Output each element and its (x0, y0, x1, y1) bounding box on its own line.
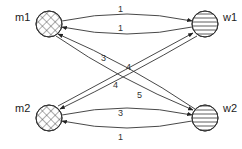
graph-canvas: 1 1 3 4 4 5 3 1 m1 w1 m2 w2 (0, 0, 242, 149)
edge-m2-w2 (62, 108, 192, 115)
striped-node-icon (192, 105, 218, 131)
edge-w1-m2 (60, 36, 197, 109)
node-w1: w1 (192, 11, 237, 37)
edge-label-w2-m1: 3 (101, 53, 106, 63)
crosshatch-node-icon (36, 105, 62, 131)
edge-labels: 1 1 3 4 4 5 3 1 (101, 4, 142, 142)
node-w2: w2 (192, 102, 237, 131)
node-label-w1: w1 (222, 11, 237, 23)
node-label-m2: m2 (15, 102, 30, 114)
node-m2: m2 (15, 102, 62, 131)
edge-label-w2-m2: 1 (118, 132, 123, 142)
edge-label-w1-m2: 4 (113, 80, 118, 90)
edge-m1-w1 (62, 14, 192, 21)
edge-label-w1-m1: 1 (118, 23, 123, 33)
edge-label-m2-w2: 3 (118, 108, 123, 118)
node-label-m1: m1 (15, 11, 30, 23)
node-label-w2: w2 (222, 102, 237, 114)
striped-node-icon (192, 11, 218, 37)
node-m1: m1 (15, 11, 62, 37)
edge-label-m1-w2: 5 (137, 90, 142, 100)
edge-m1-w2 (56, 36, 193, 110)
edge-label-m1-w1: 1 (118, 4, 123, 14)
edge-w1-m1 (62, 27, 192, 34)
crosshatch-node-icon (36, 11, 62, 37)
edge-w2-m2 (62, 121, 192, 128)
edge-label-m2-w1: 4 (126, 62, 131, 72)
